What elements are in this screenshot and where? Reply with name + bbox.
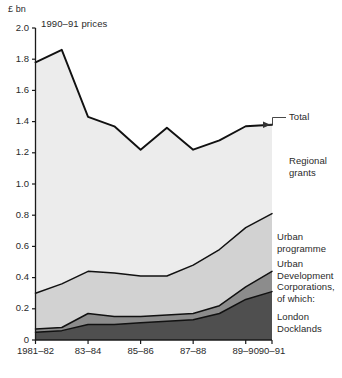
y-tick-label: 0.6 <box>3 240 29 251</box>
x-tick-label: 83–84 <box>65 345 111 356</box>
y-tick-label: 2.0 <box>3 22 29 33</box>
y-tick-label: 1.4 <box>3 115 29 126</box>
x-tick-label: 90–91 <box>249 345 295 356</box>
y-tick-label: 0.8 <box>3 209 29 220</box>
stacked-area-chart: £ bn 1990–91 prices 00.20.40.60.81.01.21… <box>0 0 342 378</box>
y-tick-label: 0.4 <box>3 271 29 282</box>
annotation-regional-grants: Regional grants <box>289 155 327 178</box>
y-tick-label: 1.6 <box>3 84 29 95</box>
y-tick-label: 1.8 <box>3 53 29 64</box>
y-tick-label: 0.2 <box>3 302 29 313</box>
total-leader-line <box>269 118 286 125</box>
x-tick-label: 85–86 <box>118 345 164 356</box>
y-tick-label: 1.2 <box>3 146 29 157</box>
y-tick-label: 1.0 <box>3 178 29 189</box>
annotation-urban-development-corporations: Urban Development Corporations, of which… <box>277 258 335 304</box>
annotation-urban-programme: Urban programme <box>277 231 326 254</box>
annotation-total: Total <box>289 111 309 123</box>
y-tick-label: 0 <box>3 334 29 345</box>
annotation-london-docklands: London Docklands <box>277 311 322 334</box>
x-tick-label: 87–88 <box>170 345 216 356</box>
x-tick-label: 1981–82 <box>13 345 59 356</box>
